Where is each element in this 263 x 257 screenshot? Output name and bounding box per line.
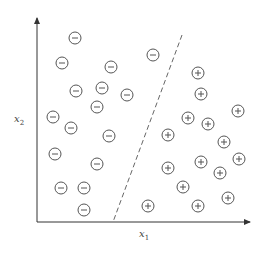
positive-point-icon xyxy=(195,88,207,100)
negative-point-icon xyxy=(105,61,117,73)
positive-class-points xyxy=(142,67,245,212)
negative-point-icon xyxy=(78,182,90,194)
positive-point-icon xyxy=(222,192,234,204)
y-axis-label-subscript: 2 xyxy=(20,119,24,127)
negative-point-icon xyxy=(96,82,108,94)
positive-point-icon xyxy=(233,153,245,165)
positive-point-icon xyxy=(192,200,204,212)
negative-point-icon xyxy=(56,57,68,69)
negative-point-icon xyxy=(78,204,90,216)
positive-point-icon xyxy=(142,200,154,212)
positive-point-icon xyxy=(214,167,226,179)
negative-point-icon xyxy=(103,130,115,142)
positive-point-icon xyxy=(162,162,174,174)
negative-point-icon xyxy=(91,101,103,113)
positive-point-icon xyxy=(192,67,204,79)
negative-point-icon xyxy=(69,32,81,44)
negative-point-icon xyxy=(47,111,59,123)
positive-point-icon xyxy=(162,129,174,141)
negative-point-icon xyxy=(55,182,67,194)
negative-point-icon xyxy=(147,49,159,61)
negative-point-icon xyxy=(121,89,133,101)
y-axis-label: x2 xyxy=(14,113,24,127)
positive-point-icon xyxy=(182,112,194,124)
classifier-diagram xyxy=(0,0,263,257)
negative-class-points xyxy=(47,32,159,216)
axes xyxy=(37,18,250,222)
x-axis-label-subscript: 1 xyxy=(145,234,149,242)
negative-point-icon xyxy=(65,122,77,134)
negative-point-icon xyxy=(70,85,82,97)
positive-point-icon xyxy=(177,181,189,193)
negative-point-icon xyxy=(91,158,103,170)
positive-point-icon xyxy=(232,105,244,117)
negative-point-icon xyxy=(49,148,61,160)
decision-boundary-line xyxy=(113,35,182,222)
positive-point-icon xyxy=(195,156,207,168)
positive-point-icon xyxy=(218,136,230,148)
positive-point-icon xyxy=(202,118,214,130)
x-axis-label: x1 xyxy=(139,228,149,242)
